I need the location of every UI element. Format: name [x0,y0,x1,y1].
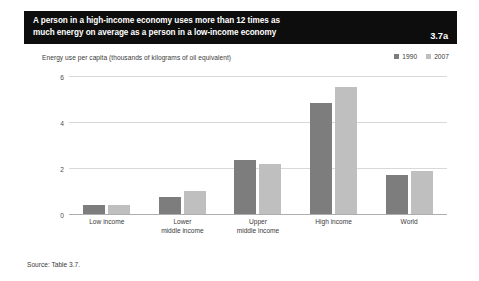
figure-number: 3.7a [430,31,448,41]
bar-1990 [310,103,332,215]
bar-2007 [411,171,433,215]
legend-item-2007: 2007 [426,53,449,60]
bar-group [296,77,372,215]
bar-2007 [335,87,357,215]
bar-2007 [184,191,206,215]
x-axis-category-label: Low income [69,218,145,235]
x-axis-category-label: High income [296,218,372,235]
bars-layer [69,77,447,215]
plot-area: 0246 [69,77,447,215]
x-axis-category-label: Lower middle income [145,218,221,235]
x-axis-line [69,214,447,215]
source-note: Source: Table 3.7. [27,261,80,268]
figure-title: A person in a high-income economy uses m… [33,15,373,38]
y-axis-tick-label: 2 [60,166,64,173]
y-axis-tick-label: 6 [60,74,64,81]
bar-2007 [259,164,281,215]
bar-group [145,77,221,215]
chart-body: Energy use per capita (thousands of kilo… [24,44,457,252]
chart-legend: 1990 2007 [394,53,449,60]
figure-container: A person in a high-income economy uses m… [0,0,479,281]
title-banner: A person in a high-income economy uses m… [24,11,457,44]
bar-group [220,77,296,215]
chart-subtitle: Energy use per capita (thousands of kilo… [42,54,231,61]
x-axis-labels: Low incomeLower middle incomeUpper middl… [69,218,447,235]
x-axis-category-label: World [371,218,447,235]
legend-swatch-2007 [426,54,431,59]
bar-group [69,77,145,215]
bar-1990 [386,175,408,215]
bar-1990 [234,160,256,215]
legend-item-1990: 1990 [394,53,417,60]
x-axis-category-label: Upper middle income [220,218,296,235]
legend-label-2007: 2007 [434,53,449,60]
y-axis-tick-label: 4 [60,120,64,127]
bar-group [371,77,447,215]
bar-1990 [159,197,181,215]
y-axis-tick-label: 0 [60,212,64,219]
legend-label-1990: 1990 [402,53,417,60]
legend-swatch-1990 [394,54,399,59]
